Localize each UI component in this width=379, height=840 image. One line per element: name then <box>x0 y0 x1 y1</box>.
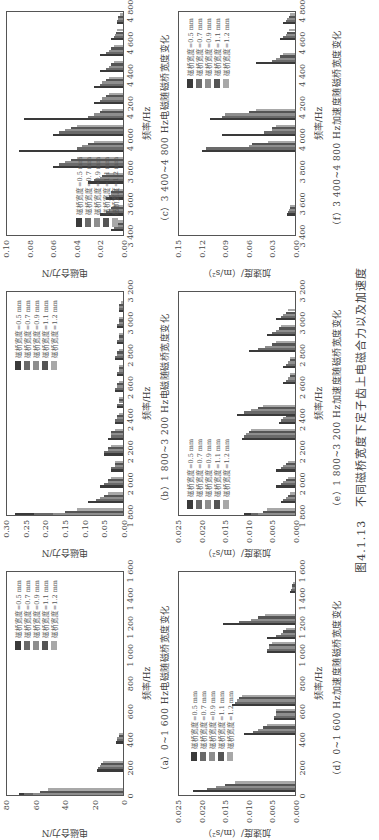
bar <box>290 205 295 207</box>
bar <box>286 380 295 382</box>
bar <box>100 485 123 487</box>
bar <box>289 16 295 18</box>
y-tick-label: 0.025 <box>174 800 183 823</box>
bar <box>276 469 295 471</box>
bar <box>117 737 123 739</box>
bar <box>286 364 295 366</box>
bar <box>244 435 295 437</box>
bar <box>118 16 123 18</box>
legend-swatch <box>85 218 91 227</box>
bar <box>117 351 123 353</box>
bar <box>281 501 295 503</box>
x-tick-label: 1 000 <box>298 644 307 667</box>
bar <box>281 483 295 485</box>
bar <box>242 438 295 440</box>
bar <box>94 86 123 88</box>
bar <box>77 125 123 127</box>
bar <box>290 492 295 494</box>
x-tick-label: 2 000 <box>126 472 135 495</box>
legend-swatch <box>227 752 233 761</box>
x-axis-label: 频率/Hz <box>140 11 153 236</box>
bar <box>88 116 123 118</box>
legend-swatch <box>214 500 220 509</box>
bar <box>109 77 123 79</box>
bar <box>276 711 295 713</box>
bar <box>264 131 295 133</box>
legend-swatch <box>24 641 30 650</box>
legend-swatch <box>187 79 193 88</box>
y-ticks: 0.0000.0050.0100.0150.0200.025 <box>178 518 296 546</box>
bar <box>117 417 123 419</box>
bar <box>202 150 295 152</box>
y-tick-label: 0.15 <box>174 240 183 258</box>
bar <box>286 312 295 314</box>
x-ticks: 3 4003 6003 8004 0004 2004 4004 6004 800 <box>298 11 310 236</box>
legend: 磁桥宽度=0.5 mm磁桥宽度=0.7 mm磁桥宽度=0.9 mm磁桥宽度=1.… <box>13 300 58 370</box>
bar <box>111 467 123 469</box>
bar <box>223 623 295 625</box>
figure-number: 图4.1.13 <box>355 520 368 573</box>
bar <box>115 356 123 358</box>
legend-swatch <box>76 218 82 227</box>
bar <box>94 102 123 104</box>
x-tick-label: 4 800 <box>298 0 307 22</box>
x-tick-label: 4 400 <box>126 64 135 87</box>
y-tick-label: 0 <box>120 800 129 805</box>
bar <box>286 463 295 465</box>
bar <box>249 431 295 433</box>
x-ticks: 1 8002 0002 2002 4002 6002 8003 0003 200 <box>298 291 310 516</box>
bar <box>114 45 123 47</box>
bar <box>117 383 123 385</box>
bar <box>114 61 123 63</box>
x-tick-label: 3 400 <box>126 225 135 248</box>
bar <box>216 786 295 788</box>
bar <box>106 52 123 54</box>
bar <box>290 375 295 377</box>
legend-swatch <box>214 79 220 88</box>
bar <box>117 340 123 342</box>
x-tick-label: 2 600 <box>126 376 135 399</box>
bar <box>116 32 123 34</box>
legend-label: 磁桥宽度=1.2 mm <box>221 18 231 76</box>
bar <box>280 55 295 57</box>
bar <box>118 18 123 20</box>
bar <box>274 716 295 718</box>
panel-caption: （a）0~1 600 Hz电磁随磁桥宽度变化 <box>158 560 171 820</box>
x-ticks: 1 8002 0002 2002 4002 6002 8003 0003 200 <box>126 291 138 516</box>
bar <box>265 614 295 616</box>
bar <box>288 362 295 364</box>
bar <box>265 346 295 348</box>
bar <box>290 591 295 593</box>
x-tick-label: 1 200 <box>298 616 307 639</box>
bar <box>88 501 123 503</box>
bar <box>114 227 123 229</box>
legend: 磁桥宽度=0.5 mm磁桥宽度=0.7 mm磁桥宽度=0.9 mm磁桥宽度=1.… <box>185 439 230 509</box>
bar <box>108 481 123 483</box>
panel-caption: （b）1 800~3 200 Hz电磁随磁桥宽度变化 <box>158 280 171 540</box>
bar <box>111 38 123 40</box>
bar <box>108 492 123 494</box>
bar <box>272 60 295 62</box>
bar <box>283 417 295 419</box>
bar <box>290 207 295 209</box>
y-tick-label: 0.06 <box>244 240 253 258</box>
y-ticks: 0.000.020.040.060.080.10 <box>6 238 124 266</box>
bar <box>109 66 123 68</box>
bar <box>96 499 123 501</box>
x-tick-label: 4 800 <box>126 0 135 22</box>
bar <box>249 350 295 352</box>
legend-item: 磁桥宽度=1.2 mm <box>49 580 58 650</box>
x-ticks: 3 4003 6003 8004 0004 2004 4004 6004 800 <box>126 11 138 236</box>
bar <box>288 309 295 311</box>
bar <box>286 20 295 22</box>
bar <box>287 213 295 215</box>
legend: 磁桥宽度=0.5 mm磁桥宽度=0.7 mm磁桥宽度=0.9 mm磁桥宽度=1.… <box>189 691 234 761</box>
bar <box>222 116 295 118</box>
bar <box>100 70 123 72</box>
x-tick-label: 800 <box>126 676 135 691</box>
bar <box>283 22 295 24</box>
legend-swatch <box>33 641 39 650</box>
bar <box>279 327 295 329</box>
legend-swatch <box>15 641 21 650</box>
bar <box>286 479 295 481</box>
